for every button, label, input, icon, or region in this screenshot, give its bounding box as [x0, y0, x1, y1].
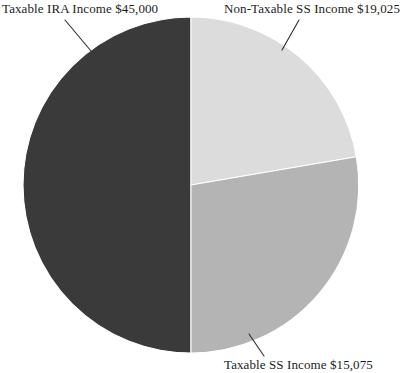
- pie-slice-non-taxable-ss[interactable]: [191, 17, 356, 185]
- leader-line-non-taxable-ss: [282, 20, 299, 50]
- pie-slice-taxable-ira[interactable]: [23, 17, 191, 353]
- pie-label-taxable-ss: Taxable SS Income $15,075: [224, 357, 373, 373]
- pie-slice-taxable-ss[interactable]: [191, 157, 359, 353]
- pie-label-taxable-ira: Taxable IRA Income $45,000: [2, 1, 158, 17]
- pie-label-non-taxable-ss: Non-Taxable SS Income $19,025: [224, 1, 400, 17]
- leader-line-taxable-ira: [65, 20, 91, 51]
